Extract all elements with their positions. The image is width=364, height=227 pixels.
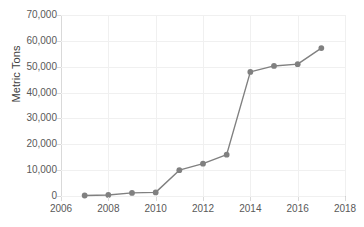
y-tick-mark: [57, 41, 61, 42]
gridline-vertical: [298, 15, 299, 196]
x-axis-tick-label: 2016: [278, 203, 318, 215]
x-tick-mark: [61, 197, 62, 201]
y-axis-tick-label: 60,000: [13, 36, 57, 46]
gridline-vertical: [345, 15, 346, 196]
x-tick-mark: [156, 197, 157, 201]
x-axis-tick-label: 2006: [41, 203, 81, 215]
x-tick-mark: [250, 197, 251, 201]
x-tick-mark: [203, 197, 204, 201]
y-axis-tick-label: 50,000: [13, 62, 57, 72]
gridline-vertical: [250, 15, 251, 196]
y-tick-mark: [57, 67, 61, 68]
y-axis-tick-label: 10,000: [13, 165, 57, 175]
y-tick-mark: [57, 144, 61, 145]
y-axis-tick-label: 0: [13, 191, 57, 201]
y-axis-tick-labels: 010,00020,00030,00040,00050,00060,00070,…: [12, 0, 57, 227]
y-tick-mark: [57, 170, 61, 171]
x-axis-tick-label: 2014: [230, 203, 270, 215]
y-tick-mark: [57, 15, 61, 16]
y-axis-tick-label: 70,000: [13, 10, 57, 20]
plot-area: [61, 15, 345, 196]
x-axis-tick-label: 2008: [88, 203, 128, 215]
gridline-vertical: [108, 15, 109, 196]
x-axis-tick-label: 2010: [136, 203, 176, 215]
y-tick-mark: [57, 93, 61, 94]
y-axis-tick-label: 20,000: [13, 139, 57, 149]
line-chart: Metric Tons 010,00020,00030,00040,00050,…: [0, 0, 364, 227]
x-tick-mark: [298, 197, 299, 201]
gridline-vertical: [203, 15, 204, 196]
y-axis-tick-label: 40,000: [13, 88, 57, 98]
y-tick-mark: [57, 118, 61, 119]
x-axis-tick-label: 2018: [325, 203, 364, 215]
x-tick-mark: [108, 197, 109, 201]
gridline-vertical: [156, 15, 157, 196]
x-tick-mark: [345, 197, 346, 201]
x-axis-tick-label: 2012: [183, 203, 223, 215]
y-axis-tick-label: 30,000: [13, 113, 57, 123]
